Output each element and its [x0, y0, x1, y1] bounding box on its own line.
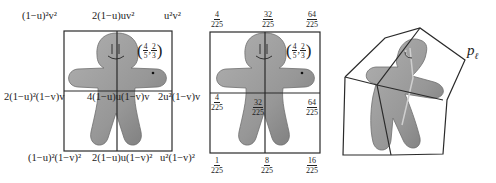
- weight-label-center: 4(1−u)u(1−v)v: [87, 92, 150, 103]
- weight-label-bottom-middle: 2(1−u)u(1−v)²: [92, 153, 152, 164]
- parameter-point-label-2: (45,23): [286, 41, 311, 61]
- deformed-gingerbread-figure: [366, 39, 443, 150]
- numeric-weight-top-middle: 32225: [262, 11, 274, 29]
- weight-label-bottom-right: u²(1−v)²: [160, 153, 195, 164]
- numeric-weight-bottom-right: 16225: [306, 157, 318, 175]
- weight-label-bottom-left: (1−u)²(1−v)²: [28, 153, 81, 164]
- control-point-label: pℓ: [467, 42, 478, 61]
- numeric-weight-top-right: 64225: [306, 11, 318, 29]
- numeric-weight-top-left: 4225: [211, 11, 223, 29]
- weight-label-top-middle: 2(1−u)uv²: [92, 11, 134, 22]
- weight-label-middle-right: 2u²(1−v)v: [158, 92, 200, 103]
- numeric-weight-bottom-middle: 8225: [261, 157, 273, 175]
- numeric-weight-center: 32225: [252, 99, 264, 117]
- weight-label-top-left: (1−u)²v²: [22, 11, 57, 22]
- parameter-point-label-1: (45,23): [137, 41, 162, 61]
- weight-label-top-right: u²v²: [164, 11, 181, 22]
- weight-label-middle-left: 2(1−u)²(1−v)v: [4, 92, 64, 103]
- numeric-weight-middle-right: 64225: [306, 99, 318, 117]
- numeric-weight-middle-left: 4225: [211, 94, 223, 112]
- numeric-weight-bottom-left: 1225: [211, 157, 223, 175]
